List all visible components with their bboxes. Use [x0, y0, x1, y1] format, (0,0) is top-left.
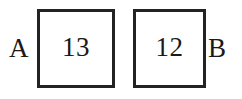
diagram-canvas: A 13 12 B — [0, 0, 242, 99]
box-a: 13 — [37, 9, 115, 88]
box-b-value: 12 — [156, 34, 184, 61]
box-a-value: 13 — [62, 34, 90, 61]
label-b: B — [208, 35, 226, 62]
label-a: A — [9, 35, 29, 62]
box-b: 12 — [133, 9, 206, 88]
